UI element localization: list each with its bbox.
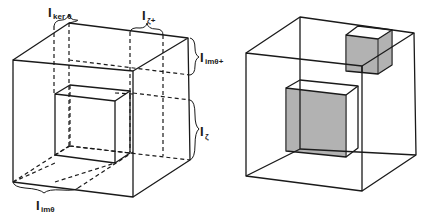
small-box-top-face <box>346 26 392 39</box>
zeta-dashed-line-right <box>133 93 190 100</box>
inner-box-front-face <box>55 94 115 163</box>
floor-dashed-diagonal <box>13 163 55 182</box>
svg-text:I: I <box>200 50 204 65</box>
right-cube-solid-edges <box>246 17 416 191</box>
right-cube-back-edges <box>246 17 416 176</box>
left-cube-dashed-lines <box>13 23 190 188</box>
right-cube <box>246 17 416 191</box>
label-zeta-plus: I ζ+ <box>142 8 156 25</box>
zeta-brace <box>190 100 199 160</box>
svg-text:I: I <box>48 5 52 20</box>
left-cube: I ker θ I ζ+ I imθ+ I ζ I imθ <box>13 5 224 214</box>
right-face <box>133 38 190 197</box>
large-box-right-face <box>346 86 358 157</box>
large-box-hatching <box>288 88 344 157</box>
right-small-hatched-box <box>346 26 392 74</box>
inner-box-bottom-left-dashed <box>55 146 70 155</box>
svg-text:ker θ: ker θ <box>53 12 72 21</box>
label-zeta: I ζ <box>200 124 209 141</box>
svg-text:I: I <box>200 124 204 139</box>
bottom-left-dashed-edge <box>13 146 69 182</box>
svg-text:I: I <box>36 198 40 213</box>
im-theta-plus-brace <box>190 38 199 75</box>
diagram-canvas: I ker θ I ζ+ I imθ+ I ζ I imθ <box>0 0 426 220</box>
im-theta-dashed-diagonal <box>55 163 115 182</box>
svg-text:ζ+: ζ+ <box>147 16 156 25</box>
svg-text:imθ+: imθ+ <box>205 57 224 66</box>
right-large-hatched-box <box>286 80 358 157</box>
svg-text:imθ: imθ <box>41 205 55 214</box>
svg-text:I: I <box>142 8 146 23</box>
label-ker-theta: I ker θ <box>48 5 72 21</box>
svg-text:ζ: ζ <box>205 132 209 141</box>
bottom-left-edge <box>246 149 300 176</box>
label-im-theta: I imθ <box>36 198 55 214</box>
label-im-theta-plus: I imθ+ <box>200 50 224 66</box>
top-face <box>246 17 414 66</box>
floor-dashed-diagonal-2 <box>78 152 133 188</box>
inner-box-back-bottom-dashed <box>70 146 130 153</box>
